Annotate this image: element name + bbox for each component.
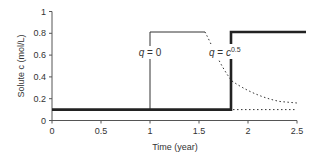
y-tick-label: 0.6 [33, 50, 46, 60]
y-axis-label: Solute c (mol/L) [16, 34, 26, 97]
x-axis-label: Time (year) [152, 142, 198, 152]
x-tick-label: 0 [49, 126, 54, 136]
x-tick-labels: 0 0.5 1 1.5 2 2.5 [49, 126, 303, 136]
y-tick-label: 0.2 [33, 94, 46, 104]
x-tick-label: 1 [147, 126, 152, 136]
annotation-q0: q = 0 [139, 47, 162, 58]
annot-rest: = 0 [144, 47, 161, 58]
series-qc05-curve [205, 32, 297, 103]
series-q0-line [150, 32, 205, 110]
chart: 0 0.2 0.4 0.6 0.8 1 0 0.5 1 1.5 2 2.5 Ti… [0, 0, 321, 160]
x-tick-label: 2.5 [291, 126, 304, 136]
y-tick-labels: 0 0.2 0.4 0.6 0.8 1 [33, 7, 46, 126]
y-tick-label: 1 [41, 7, 46, 17]
y-tick-label: 0.4 [33, 72, 46, 82]
y-tick-label: 0 [41, 116, 46, 126]
x-tick-label: 1.5 [193, 126, 206, 136]
y-tick-label: 0.8 [33, 28, 46, 38]
series-thick-step [52, 32, 306, 110]
annot-exp: 0.5 [231, 46, 241, 53]
annot-eq: = [215, 47, 226, 58]
x-tick-label: 0.5 [95, 126, 108, 136]
x-tick-label: 2 [245, 126, 250, 136]
